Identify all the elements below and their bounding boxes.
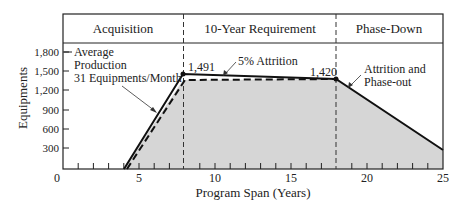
chart: Acquisition 10-Year Requirement Phase-Do…: [0, 0, 469, 210]
x-axis-title: Program Span (Years): [196, 185, 311, 200]
svg-text:1,200: 1,200: [34, 84, 59, 96]
svg-text:900: 900: [43, 104, 60, 116]
y-axis-title: Equipments: [15, 67, 30, 129]
svg-text:10: 10: [209, 171, 221, 185]
phase-label-requirement: 10-Year Requirement: [204, 21, 316, 36]
ann-1420-value: 1,420: [310, 65, 337, 79]
ann-production: Production: [74, 58, 127, 72]
y-axis-labels: 1,800 1,500 1,200 900 600 300: [34, 46, 59, 154]
svg-text:1,500: 1,500: [34, 65, 59, 77]
ann-peak-value: 1,491: [188, 60, 215, 74]
svg-text:600: 600: [43, 123, 60, 135]
svg-text:15: 15: [285, 171, 297, 185]
ann-rate: 31 Equipments/Month: [74, 71, 182, 85]
svg-text:1,800: 1,800: [34, 46, 59, 58]
ann-attrition: 5% Attrition: [238, 54, 298, 68]
y-axis-ticks: [63, 52, 69, 148]
svg-text:0: 0: [54, 171, 60, 185]
phase-label-acquisition: Acquisition: [93, 21, 154, 36]
phase-label-phase-down: Phase-Down: [356, 21, 423, 36]
svg-text:5: 5: [136, 171, 142, 185]
ann-phase-out: Phase-out: [364, 75, 412, 89]
svg-text:300: 300: [43, 142, 60, 154]
svg-text:20: 20: [361, 171, 373, 185]
ann-average: Average: [74, 45, 114, 59]
avg-arrow: [122, 86, 155, 111]
ann-attrition-and: Attrition and: [364, 62, 426, 76]
phaseout-arrow-head: [348, 82, 353, 88]
x-axis-labels: 0 5 10 15 20 25: [54, 171, 449, 185]
svg-text:25: 25: [437, 171, 449, 185]
